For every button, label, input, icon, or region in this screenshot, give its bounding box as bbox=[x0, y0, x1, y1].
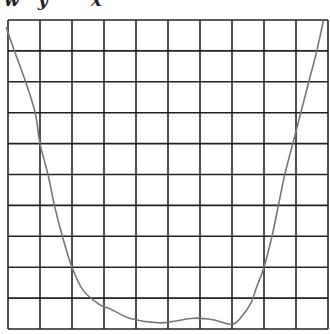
grid-lines bbox=[8, 20, 328, 329]
curve-line bbox=[6, 22, 323, 325]
curve-grid-diagram bbox=[0, 0, 330, 334]
